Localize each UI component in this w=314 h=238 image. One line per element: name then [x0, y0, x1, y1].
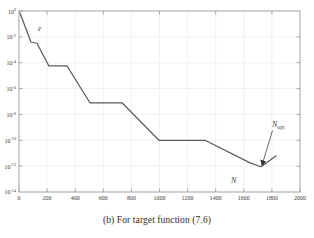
svg-text:100: 100 — [8, 7, 16, 14]
x-tick-label-10: 2000 — [294, 195, 306, 201]
figure-caption: (b) For target function (7.6) — [0, 215, 314, 225]
y-tick-exp-5: -10 — [10, 136, 16, 141]
n-opt-label-subscript: opt — [277, 124, 285, 130]
x-tick-label-1: 200 — [43, 195, 52, 201]
y-tick-exp-0: 0 — [14, 7, 16, 12]
svg-text:10-2: 10-2 — [7, 33, 17, 40]
svg-text:10-10: 10-10 — [4, 136, 16, 143]
x-tick-label-5: 1000 — [154, 195, 166, 201]
svg-text:10-14: 10-14 — [4, 188, 16, 195]
y-tick-exp-2: -4 — [13, 59, 17, 64]
x-tick-label-9: 1800 — [266, 195, 278, 201]
x-tick-label-0: 0 — [18, 195, 21, 201]
x-tick-label-4: 800 — [127, 195, 136, 201]
y-tick-exp-7: -14 — [10, 188, 16, 193]
svg-text:10-12: 10-12 — [4, 162, 16, 169]
x-tick-label-2: 400 — [71, 195, 80, 201]
y-tick-exp-6: -12 — [10, 162, 16, 167]
x-axis-tick-labels: 0 200 400 600 800 1000 1200 1400 1600 18… — [18, 195, 307, 201]
svg-text:10-4: 10-4 — [7, 59, 17, 66]
figure-container: 100 10-2 10-4 10-6 10-8 10-10 10-12 10-1… — [0, 0, 314, 238]
x-tick-label-3: 600 — [99, 195, 108, 201]
x-tick-label-6: 1200 — [182, 195, 194, 201]
x-tick-label-8: 1600 — [238, 195, 250, 201]
svg-text:10-6: 10-6 — [7, 85, 17, 92]
y-axis-tick-labels: 100 10-2 10-4 10-6 10-8 10-10 10-12 10-1… — [4, 7, 16, 195]
y-tick-exp-3: -6 — [13, 85, 17, 90]
error-convergence-chart: 100 10-2 10-4 10-6 10-8 10-10 10-12 10-1… — [0, 0, 314, 238]
x-tick-label-7: 1400 — [210, 195, 222, 201]
n-axis-label: N — [230, 176, 237, 185]
svg-text:10-8: 10-8 — [7, 111, 17, 118]
error-axis-label: e — [38, 24, 42, 33]
y-tick-exp-1: -2 — [13, 33, 17, 38]
y-tick-exp-4: -8 — [13, 111, 17, 116]
